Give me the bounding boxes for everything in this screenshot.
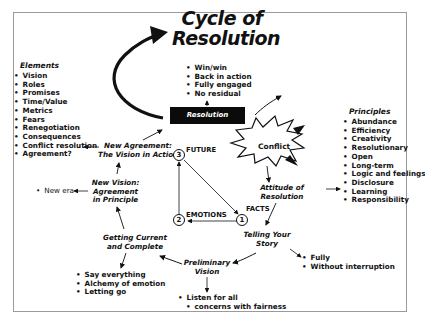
resolution-box: Resolution	[170, 107, 245, 124]
list-item: New era	[36, 187, 74, 196]
new-vision-annotations: New era	[36, 187, 74, 196]
stage-label-line: in Principle	[88, 196, 143, 205]
triangle-label-future: FUTURE	[186, 146, 216, 155]
triangle-label-emotions: EMOTIONS	[186, 211, 227, 220]
principles-list: Abundance Efficiency Creativity Resoluti…	[343, 118, 425, 205]
list-item: concerns with fairness	[178, 303, 286, 312]
triangle-node-facts: 1	[236, 214, 248, 226]
triangle-label-facts: FACTS	[246, 205, 270, 214]
list-item: No residual	[186, 90, 252, 99]
stage-label-line: Vision	[172, 268, 242, 277]
stage-getting-current: Getting Current and Complete	[100, 234, 170, 251]
stage-telling-your-story: Telling Your Story	[232, 231, 302, 248]
stage-attitude-of-resolution: Attitude of Resolution	[242, 184, 322, 201]
list-item: Without interruption	[302, 263, 395, 272]
stage-label-line: Story	[232, 240, 302, 249]
list-item-text: concerns with fairness	[195, 302, 287, 311]
getting-current-annotations: Say everything Alchemy of emotion Lettin…	[76, 271, 165, 297]
title-line-1: Cycle of	[172, 8, 272, 28]
conflict-label: Conflict	[258, 142, 290, 151]
elements-list: Vision Roles Promises Time/Value Metrics…	[14, 72, 97, 159]
preliminary-annotations: Listen for all concerns with fairness	[178, 294, 286, 311]
principles-heading: Principles	[349, 108, 390, 117]
stage-new-agreement: New Agreement: The Vision in Action	[98, 142, 178, 159]
triangle-node-emotions: 2	[173, 214, 185, 226]
list-item: Letting go	[76, 288, 165, 297]
stage-label-line: The Vision in Action	[98, 151, 178, 160]
title-line-2: Resolution	[172, 28, 272, 48]
list-item: Responsibility	[343, 196, 425, 205]
telling-annotations: Fully Without interruption	[302, 254, 395, 271]
stage-new-vision: New Vision: Agreement in Principle	[88, 179, 143, 205]
stage-label-line: Resolution	[242, 193, 322, 202]
resolution-outcomes-list: Win/win Back in action Fully engaged No …	[186, 64, 252, 99]
stage-label-line: and Complete	[100, 243, 170, 252]
diagram-title: Cycle of Resolution	[172, 8, 272, 48]
triangle-node-future: 3	[173, 149, 185, 161]
elements-heading: Elements	[20, 62, 59, 71]
stage-preliminary-vision: Preliminary Vision	[172, 259, 242, 276]
list-item: Agreement?	[14, 150, 97, 159]
